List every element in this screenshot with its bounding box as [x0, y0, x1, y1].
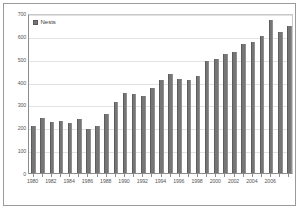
- x-axis-tick: [288, 174, 289, 177]
- x-axis-tick: [234, 174, 235, 177]
- x-axis-tick: [179, 174, 180, 177]
- chart-figure: 0100200300400500600700 19801982198419861…: [0, 0, 299, 209]
- y-axis-tick-label: 600: [2, 34, 26, 40]
- x-axis-tick-label: 1984: [61, 178, 77, 184]
- bar: [86, 129, 91, 173]
- x-axis-tick-label: 2002: [226, 178, 242, 184]
- bar: [123, 93, 128, 173]
- y-axis-tick-label: 500: [2, 57, 26, 63]
- bar: [50, 122, 55, 173]
- x-axis-tick: [224, 174, 225, 177]
- x-axis-tick: [115, 174, 116, 177]
- bar: [214, 59, 219, 173]
- bar: [168, 74, 173, 173]
- x-axis-tick: [97, 174, 98, 177]
- x-axis-tick: [133, 174, 134, 177]
- bar: [68, 123, 73, 173]
- x-axis-tick-label: 1980: [25, 178, 41, 184]
- bar: [287, 26, 292, 173]
- x-axis-tick: [124, 174, 125, 177]
- bar: [232, 52, 237, 173]
- bar: [31, 126, 36, 173]
- x-axis-tick: [42, 174, 43, 177]
- y-axis-tick-label: 400: [2, 80, 26, 86]
- bar: [269, 20, 274, 173]
- y-axis-tick-label: 300: [2, 102, 26, 108]
- bar-series-nests: [29, 15, 292, 173]
- x-axis-tick: [206, 174, 207, 177]
- bar: [196, 76, 201, 173]
- x-axis: 1980198219841986198819901992199419961998…: [28, 174, 293, 194]
- plot-area: [28, 14, 293, 174]
- x-axis-tick-label: 1988: [98, 178, 114, 184]
- y-axis-tick-label: 200: [2, 125, 26, 131]
- x-axis-tick: [78, 174, 79, 177]
- bar: [150, 88, 155, 173]
- bar: [251, 42, 256, 173]
- bar: [95, 126, 100, 173]
- x-axis-tick: [270, 174, 271, 177]
- x-axis-tick: [60, 174, 61, 177]
- bar: [260, 36, 265, 173]
- x-axis-tick-label: 1982: [43, 178, 59, 184]
- x-axis-tick-label: 1996: [171, 178, 187, 184]
- x-axis-tick-label: 1986: [79, 178, 95, 184]
- x-axis-tick: [188, 174, 189, 177]
- y-axis-tick-label: 0: [2, 171, 26, 177]
- x-axis-tick: [87, 174, 88, 177]
- x-axis-tick: [106, 174, 107, 177]
- bar: [278, 32, 283, 173]
- y-axis-tick-label: 100: [2, 148, 26, 154]
- x-axis-tick-label: 2006: [262, 178, 278, 184]
- x-axis-tick: [161, 174, 162, 177]
- x-axis-tick-label: 1990: [116, 178, 132, 184]
- y-axis-labels: 0100200300400500600700: [0, 0, 26, 209]
- legend-label-nests: Nests: [41, 19, 56, 26]
- x-axis-tick-label: 2000: [207, 178, 223, 184]
- bar: [159, 80, 164, 173]
- x-axis-tick: [142, 174, 143, 177]
- bar: [40, 118, 45, 173]
- x-axis-tick: [215, 174, 216, 177]
- bar: [223, 54, 228, 173]
- x-axis-tick: [261, 174, 262, 177]
- bar: [104, 114, 109, 173]
- bar: [114, 102, 119, 173]
- bar: [59, 121, 64, 173]
- x-axis-tick: [252, 174, 253, 177]
- legend-swatch-nests: [33, 20, 38, 25]
- x-axis-tick-label: 2004: [244, 178, 260, 184]
- x-axis-tick-label: 1994: [153, 178, 169, 184]
- legend: Nests: [33, 19, 56, 26]
- bar: [177, 79, 182, 173]
- x-axis-tick-label: 1998: [189, 178, 205, 184]
- bar: [241, 44, 246, 173]
- bar: [187, 80, 192, 173]
- y-axis-tick-label: 700: [2, 11, 26, 17]
- bar: [132, 94, 137, 173]
- x-axis-tick: [197, 174, 198, 177]
- bar: [77, 119, 82, 173]
- x-axis-tick: [151, 174, 152, 177]
- bar: [141, 96, 146, 173]
- x-axis-tick-label: 1992: [134, 178, 150, 184]
- bar: [205, 61, 210, 173]
- x-axis-tick: [170, 174, 171, 177]
- x-axis-tick: [69, 174, 70, 177]
- x-axis-tick: [33, 174, 34, 177]
- x-axis-tick: [279, 174, 280, 177]
- x-axis-tick: [243, 174, 244, 177]
- x-axis-tick: [51, 174, 52, 177]
